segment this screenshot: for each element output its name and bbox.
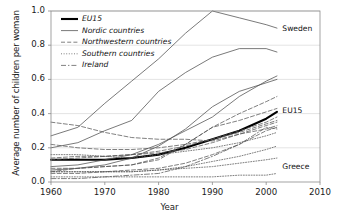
y-tick-label: 0.2	[19, 142, 45, 152]
series-line	[51, 108, 277, 171]
series-annotation: EU15	[282, 106, 302, 115]
y-tick-label: 0.0	[19, 176, 45, 186]
series-annotation: Greece	[282, 162, 309, 171]
x-tick-label: 1980	[139, 187, 179, 197]
series-layer	[51, 11, 277, 179]
y-axis-title: Average number of children per woman	[11, 0, 21, 188]
legend-label: EU15	[82, 14, 102, 23]
fertility-line-chart: Average number of children per woman Yea…	[0, 0, 339, 221]
x-tick-label: 1960	[31, 187, 71, 197]
y-tick-label: 1.0	[19, 5, 45, 15]
x-tick-label: 2000	[246, 187, 286, 197]
legend-label: Southern countries	[82, 49, 154, 58]
x-tick-label: 1990	[192, 187, 232, 197]
series-line	[51, 173, 277, 176]
legend-label: Ireland	[82, 60, 108, 69]
x-tick-label: 2010	[300, 187, 339, 197]
series-annotation: Sweden	[282, 24, 312, 33]
legend-label: Nordic countries	[82, 26, 144, 35]
y-tick-label: 0.4	[19, 108, 45, 118]
x-axis-title: Year	[0, 202, 339, 212]
legend-line-samples	[61, 19, 78, 65]
y-tick-label: 0.8	[19, 39, 45, 49]
y-tick-label: 0.6	[19, 73, 45, 83]
x-tick-label: 1970	[85, 187, 125, 197]
legend-label: Northwestern countries	[82, 37, 171, 46]
